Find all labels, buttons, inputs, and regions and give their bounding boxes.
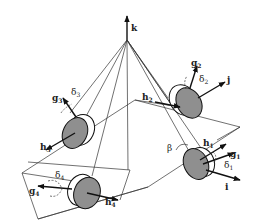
i-axis-label: i [225,182,229,192]
svg-text:g4: g4 [29,186,39,197]
svg-text:δ1: δ1 [224,160,233,171]
svg-text:g3: g3 [52,93,62,104]
k-axis: k [127,16,138,40]
beta-angle-label: β [167,143,172,153]
j-axis-label: j [226,75,230,85]
gyro-1: h1 g1 δ1 i β [167,138,240,192]
svg-text:g2: g2 [191,58,201,69]
svg-text:h1: h1 [203,138,214,149]
svg-text:δ4: δ4 [55,170,64,181]
i-vector [206,170,240,180]
svg-text:δ2: δ2 [199,74,208,85]
k-axis-label: k [131,23,138,33]
svg-text:g1: g1 [230,149,240,160]
svg-text:h3: h3 [40,142,51,153]
g4-vector [38,186,72,189]
svg-text:δ3: δ3 [71,87,80,98]
cmg-pyramid-diagram: k g3 δ3 h3 g2 δ2 j h2 h1 g1 δ1 i [0,0,258,222]
svg-text:h2: h2 [142,92,153,103]
g2-vector [190,66,197,88]
j-vector [198,82,225,98]
gyro-3: g3 δ3 h3 [40,87,100,153]
